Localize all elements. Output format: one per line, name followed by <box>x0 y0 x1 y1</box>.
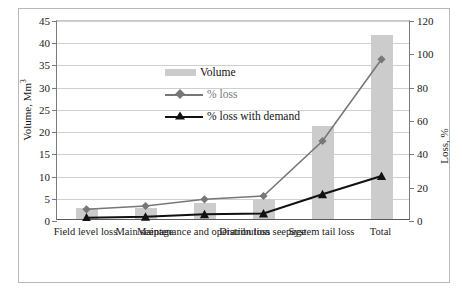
y-axis-left-tick-label: 20 <box>39 126 57 138</box>
bar <box>76 208 98 219</box>
y-axis-right-tick-label: 120 <box>409 15 434 27</box>
x-axis-category-label: Field level loss <box>54 226 118 237</box>
bar <box>135 208 157 219</box>
gridline <box>57 21 409 22</box>
legend-item-volume: Volume <box>165 61 330 83</box>
legend-swatch-volume-icon <box>165 69 196 76</box>
legend-item-percent-loss: % loss <box>165 83 330 105</box>
y-axis-right-tick-label: 100 <box>409 48 434 60</box>
y-axis-right-tick-label: 0 <box>409 215 423 227</box>
legend-swatch-percent-loss-demand-icon <box>165 111 203 121</box>
gridline <box>57 43 409 44</box>
line-path <box>87 176 382 218</box>
bar <box>312 126 334 219</box>
chart-figure: Volume, Mm3 Loss, % 051015202530354045 0… <box>0 0 464 300</box>
legend-swatch-percent-loss-icon <box>165 89 203 99</box>
y-axis-left-title: Volume, Mm3 <box>19 79 33 141</box>
y-axis-right-tick-label: 80 <box>409 82 428 94</box>
y-axis-left-tick-label: 40 <box>39 37 57 49</box>
x-axis-category-label: Total <box>370 226 391 237</box>
legend-label-percent-loss-demand: % loss with demand <box>207 110 300 122</box>
legend-label-volume: Volume <box>200 66 236 78</box>
gridline <box>57 154 409 155</box>
bar <box>194 203 216 219</box>
bar <box>253 199 275 219</box>
y-axis-right-tick-label: 20 <box>409 182 428 194</box>
gridline <box>57 132 409 133</box>
chart-legend: Volume % loss % loss with demand <box>165 61 330 127</box>
y-axis-left-tick-label: 10 <box>39 171 57 183</box>
y-axis-left-tick-label: 35 <box>39 59 57 71</box>
y-axis-right-tick-label: 60 <box>409 115 428 127</box>
plot-area: 051015202530354045 020406080100120 Volum… <box>56 20 410 220</box>
y-axis-left-tick-label: 5 <box>45 193 58 205</box>
legend-label-percent-loss: % loss <box>207 88 237 100</box>
y-axis-right-tick-label: 40 <box>409 148 428 160</box>
x-axis-category-label: System tail loss <box>289 226 355 237</box>
gridline <box>57 177 409 178</box>
bar <box>371 35 393 219</box>
y-axis-right-title: Loss, % <box>438 128 450 163</box>
y-axis-left-tick-label: 15 <box>39 148 57 160</box>
y-axis-left-tick-label: 30 <box>39 82 57 94</box>
y-axis-left-tick-label: 45 <box>39 15 57 27</box>
y-axis-left-tick-label: 25 <box>39 104 57 116</box>
gridline <box>57 199 409 200</box>
legend-item-percent-loss-demand: % loss with demand <box>165 105 330 127</box>
